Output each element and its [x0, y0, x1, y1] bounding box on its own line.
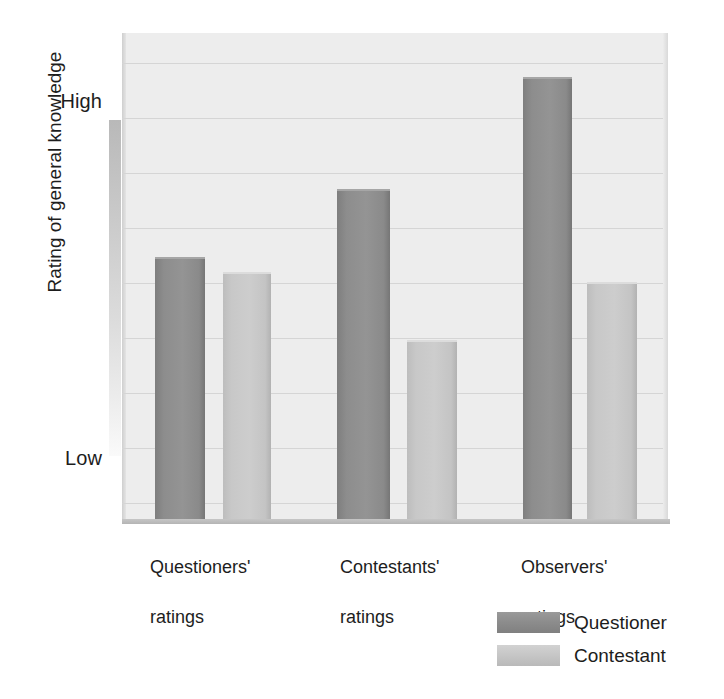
- bar-fill: [337, 189, 390, 521]
- bar-questioner-questioners-ratings[interactable]: [155, 257, 205, 521]
- bar-fill: [223, 272, 271, 521]
- bar-contestant-contestants-ratings[interactable]: [407, 340, 457, 521]
- bar-fill: [407, 340, 457, 521]
- bar-questioner-contestants-ratings[interactable]: [337, 189, 390, 521]
- legend-swatch-questioner: [497, 612, 560, 633]
- x-axis-baseline: [122, 519, 670, 524]
- y-axis: High Low Rating of general knowledge: [0, 0, 122, 560]
- x-axis-label-line2: ratings: [340, 607, 394, 627]
- bar-fill: [523, 77, 572, 521]
- legend-swatch-contestant: [497, 645, 560, 666]
- chart-figure: High Low Rating of general knowledge: [0, 0, 724, 699]
- bar-fill: [587, 282, 637, 521]
- bar-contestant-observers-ratings[interactable]: [587, 282, 637, 521]
- x-axis-label-line2: ratings: [150, 607, 204, 627]
- legend-item-contestant[interactable]: Contestant: [497, 639, 707, 672]
- bars-layer: [122, 33, 668, 521]
- legend-label-questioner: Questioner: [574, 612, 667, 634]
- bar-questioner-observers-ratings[interactable]: [523, 77, 572, 521]
- x-axis-category-labels: Questioners' ratings Contestants' rating…: [122, 530, 668, 594]
- y-axis-low-label: Low: [65, 447, 102, 470]
- legend-item-questioner[interactable]: Questioner: [497, 606, 707, 639]
- x-axis-label-contestants-ratings: Contestants' ratings: [340, 530, 490, 630]
- plot-area: [122, 33, 668, 521]
- x-axis-label-line1: Contestants': [340, 557, 440, 577]
- legend-label-contestant: Contestant: [574, 645, 666, 667]
- x-axis-label-questioners-ratings: Questioners' ratings: [150, 530, 300, 630]
- bar-contestant-questioners-ratings[interactable]: [223, 272, 271, 521]
- x-axis-label-line1: Questioners': [150, 557, 251, 577]
- x-axis-label-line1: Observers': [521, 557, 607, 577]
- y-axis-title: Rating of general knowledge: [44, 0, 72, 352]
- legend: Questioner Contestant: [497, 606, 707, 672]
- bar-fill: [155, 257, 205, 521]
- y-axis-gradient-strip: [109, 120, 121, 456]
